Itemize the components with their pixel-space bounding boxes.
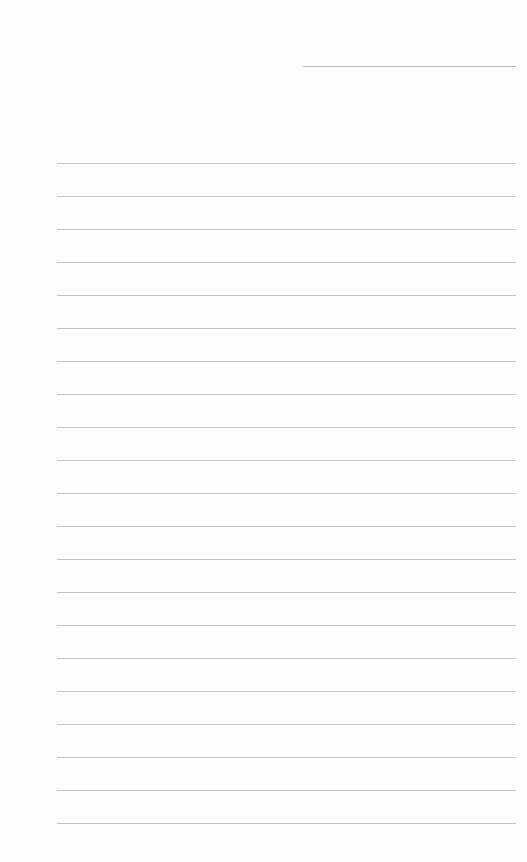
ruled-line [57,724,516,725]
ruled-line [57,493,516,494]
ruled-line [57,163,516,164]
ruled-line [57,229,516,230]
lined-paper-page [0,0,527,862]
ruled-line [57,328,516,329]
ruled-line [57,196,516,197]
ruled-line [57,394,516,395]
ruled-line [57,262,516,263]
ruled-line [57,625,516,626]
ruled-line [57,295,516,296]
ruled-line [57,757,516,758]
ruled-line [57,592,516,593]
ruled-line [57,427,516,428]
ruled-line [57,526,516,527]
ruled-line [57,559,516,560]
ruled-line [57,361,516,362]
date-line [303,66,516,67]
ruled-line [57,823,516,824]
ruled-line [57,790,516,791]
ruled-line [57,691,516,692]
ruled-line [57,460,516,461]
ruled-line [57,658,516,659]
